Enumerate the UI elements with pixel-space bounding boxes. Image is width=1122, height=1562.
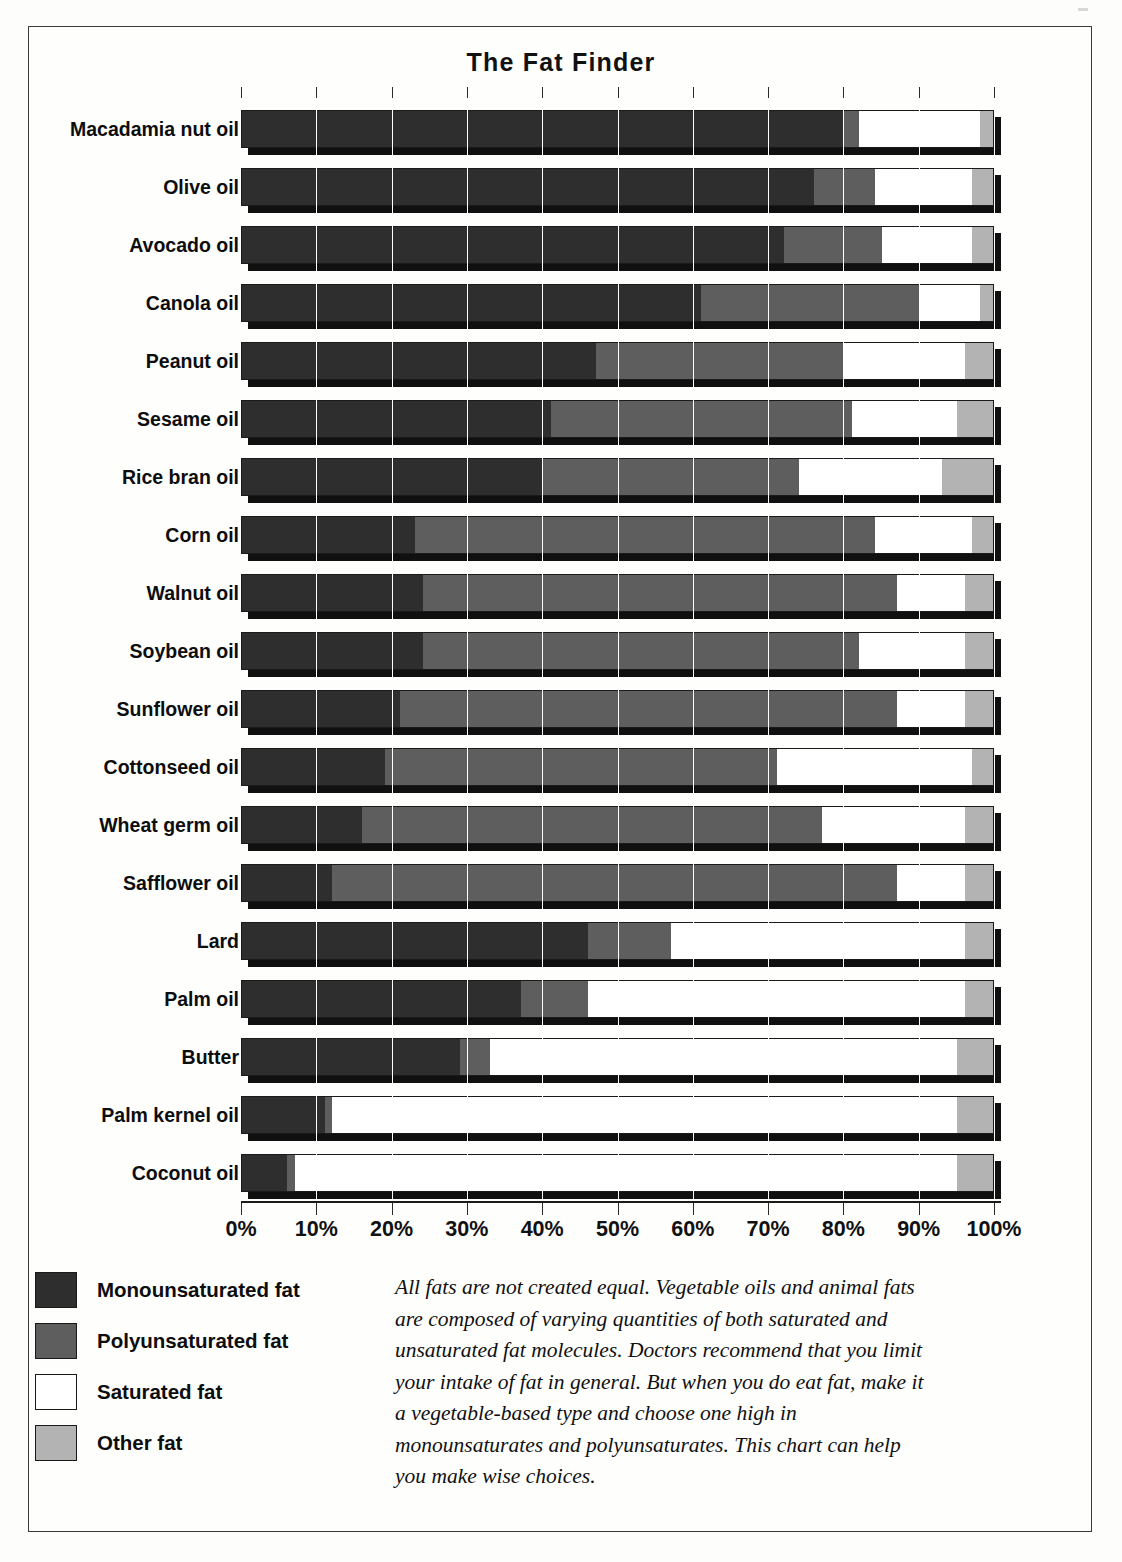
chart-row: Butter: [241, 1038, 994, 1076]
chart-row: Avocado oil: [241, 226, 994, 264]
bar-body: [241, 864, 994, 902]
chart-row: Walnut oil: [241, 574, 994, 612]
bar-segment-polyunsaturated: [460, 1039, 490, 1075]
stacked-bar: [241, 632, 994, 670]
bar-segment-other: [957, 1155, 994, 1191]
scan-artifact: [1078, 8, 1088, 11]
bar-segment-saturated: [875, 169, 973, 205]
bar-segment-saturated: [920, 285, 980, 321]
bar-body: [241, 1038, 994, 1076]
bar-segment-other: [957, 1097, 994, 1133]
stacked-bar: [241, 922, 994, 960]
axis-tick-top: [843, 87, 844, 98]
axis-tick-bottom: [467, 1203, 468, 1215]
axis-tick-bottom: [843, 1203, 844, 1215]
axis-tick-top: [392, 87, 393, 98]
bar-body: [241, 458, 994, 496]
bar-segment-polyunsaturated: [423, 575, 897, 611]
category-label: Wheat germ oil: [0, 806, 239, 844]
bar-body: [241, 284, 994, 322]
bar-segment-polyunsaturated: [423, 633, 860, 669]
chart-row: Olive oil: [241, 168, 994, 206]
bar-body: [241, 168, 994, 206]
bar-segment-monounsaturated: [242, 111, 844, 147]
bar-segment-monounsaturated: [242, 749, 385, 785]
x-axis: 0%10%20%30%40%50%60%70%80%90%100%: [241, 1203, 994, 1249]
bar-segment-saturated: [875, 517, 973, 553]
bar-segment-other: [965, 807, 994, 843]
bar-segment-saturated: [295, 1155, 958, 1191]
category-label: Avocado oil: [0, 226, 239, 264]
bar-body: [241, 400, 994, 438]
category-label: Coconut oil: [0, 1154, 239, 1192]
bar-body: [241, 632, 994, 670]
chart-row: Coconut oil: [241, 1154, 994, 1192]
axis-tick-top: [467, 87, 468, 98]
chart-row: Sunflower oil: [241, 690, 994, 728]
axis-tick-top: [693, 87, 694, 98]
axis-tick-bottom: [693, 1203, 694, 1215]
bar-body: [241, 806, 994, 844]
legend-item-label: Saturated fat: [97, 1370, 222, 1414]
bar-segment-polyunsaturated: [784, 227, 882, 263]
bar-segment-monounsaturated: [242, 691, 400, 727]
bar-segment-other: [980, 111, 994, 147]
chart-row: Sesame oil: [241, 400, 994, 438]
bar-segment-polyunsaturated: [400, 691, 897, 727]
bar-segment-monounsaturated: [242, 343, 596, 379]
x-axis-tick-label: 20%: [352, 1217, 432, 1242]
category-label: Soybean oil: [0, 632, 239, 670]
x-axis-tick-label: 60%: [653, 1217, 733, 1242]
bar-segment-monounsaturated: [242, 459, 543, 495]
legend-item-label: Monounsaturated fat: [97, 1268, 300, 1312]
bar-segment-other: [965, 691, 994, 727]
bar-segment-monounsaturated: [242, 981, 521, 1017]
bar-segment-monounsaturated: [242, 923, 588, 959]
category-label: Butter: [0, 1038, 239, 1076]
x-axis-tick-label: 30%: [427, 1217, 507, 1242]
bar-segment-polyunsaturated: [415, 517, 874, 553]
bar-segment-monounsaturated: [242, 807, 362, 843]
stacked-bar: [241, 574, 994, 612]
bar-body: [241, 226, 994, 264]
legend-item: Polyunsaturated fat: [35, 1319, 365, 1370]
bar-segment-monounsaturated: [242, 227, 784, 263]
bar-segment-polyunsaturated: [844, 111, 859, 147]
bar-segment-other: [965, 865, 994, 901]
bar-segment-saturated: [332, 1097, 957, 1133]
x-axis-tick-label: 70%: [728, 1217, 808, 1242]
bar-segment-other: [965, 981, 994, 1017]
legend-item: Saturated fat: [35, 1370, 365, 1421]
bar-segment-monounsaturated: [242, 1155, 287, 1191]
legend-item: Monounsaturated fat: [35, 1268, 365, 1319]
bar-body: [241, 110, 994, 148]
chart-row: Palm kernel oil: [241, 1096, 994, 1134]
bar-segment-other: [957, 401, 994, 437]
chart-row: Soybean oil: [241, 632, 994, 670]
legend-item: Other fat: [35, 1421, 365, 1472]
stacked-bar: [241, 168, 994, 206]
bar-body: [241, 516, 994, 554]
category-label: Safflower oil: [0, 864, 239, 902]
stacked-bar: [241, 458, 994, 496]
bar-segment-polyunsaturated: [551, 401, 852, 437]
axis-tick-bottom: [542, 1203, 543, 1215]
bar-segment-monounsaturated: [242, 633, 423, 669]
legend: Monounsaturated fatPolyunsaturated fatSa…: [35, 1268, 365, 1472]
category-label: Corn oil: [0, 516, 239, 554]
bar-segment-saturated: [671, 923, 965, 959]
caption-text: All fats are not created equal. Vegetabl…: [395, 1272, 935, 1493]
stacked-bar: [241, 980, 994, 1018]
category-label: Olive oil: [0, 168, 239, 206]
chart-row: Rice bran oil: [241, 458, 994, 496]
axis-tick-top: [994, 87, 995, 98]
bar-body: [241, 690, 994, 728]
axis-tick-top: [768, 87, 769, 98]
stacked-bar: [241, 748, 994, 786]
bar-segment-other: [972, 749, 994, 785]
bar-segment-polyunsaturated: [362, 807, 821, 843]
bar-segment-polyunsaturated: [287, 1155, 295, 1191]
category-label: Sesame oil: [0, 400, 239, 438]
bar-segment-other: [972, 227, 994, 263]
bar-segment-polyunsaturated: [701, 285, 919, 321]
